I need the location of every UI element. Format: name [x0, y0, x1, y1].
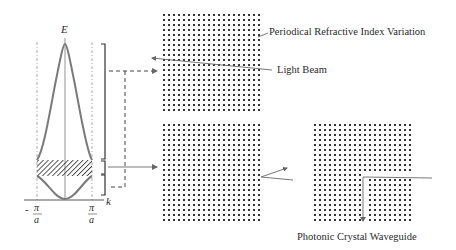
lattice-dot [384, 184, 386, 186]
lattice-dot [238, 129, 240, 131]
lattice-dot [238, 214, 240, 216]
lattice-dot [223, 54, 225, 56]
lattice-dot [384, 204, 386, 206]
lattice-dot [163, 129, 165, 131]
lattice-dot [183, 204, 185, 206]
lattice-dot [208, 134, 210, 136]
lattice-dot [404, 184, 406, 186]
lattice-dot [324, 124, 326, 126]
lattice-dot [183, 154, 185, 156]
lattice-dot [223, 129, 225, 131]
lattice-dot [203, 134, 205, 136]
lattice-dot [223, 204, 225, 206]
lattice-dot [359, 154, 361, 156]
lattice-dot [193, 84, 195, 86]
lattice-dot [334, 219, 336, 221]
lattice-dot [349, 149, 351, 151]
lattice-dot [183, 129, 185, 131]
lattice-dot [324, 129, 326, 131]
lattice-dot [163, 219, 165, 221]
lattice-dot [208, 84, 210, 86]
lattice-dot [213, 124, 215, 126]
lattice-dot [344, 144, 346, 146]
lattice-dot [178, 214, 180, 216]
lattice-dot [389, 164, 391, 166]
lattice-dot [193, 79, 195, 81]
lattice-dot [364, 159, 366, 161]
lattice-dot [314, 144, 316, 146]
lattice-dot [223, 29, 225, 31]
lattice-dot [334, 139, 336, 141]
lattice-dot [178, 94, 180, 96]
lattice-dot [183, 64, 185, 66]
lattice-dot [228, 24, 230, 26]
lattice-dot [238, 59, 240, 61]
gap-bracket [101, 161, 105, 174]
lattice-dot [258, 184, 260, 186]
lattice-dot [213, 14, 215, 16]
lattice-dot [213, 34, 215, 36]
lattice-dot [188, 104, 190, 106]
lattice-dot [324, 144, 326, 146]
lattice-dot [248, 19, 250, 21]
lattice-dot [188, 144, 190, 146]
lattice-dot [178, 49, 180, 51]
lattice-dot [344, 174, 346, 176]
lattice-dot [243, 39, 245, 41]
lattice-dot [369, 184, 371, 186]
lattice-dot [349, 154, 351, 156]
lattice-dot [228, 164, 230, 166]
lattice-dot [163, 74, 165, 76]
lattice-dot [253, 19, 255, 21]
lattice-dot [213, 44, 215, 46]
lattice-dot [223, 79, 225, 81]
lattice-dot [223, 194, 225, 196]
lattice-dot [168, 44, 170, 46]
lattice-dot [183, 44, 185, 46]
lattice-dot [374, 199, 376, 201]
lattice-dot [198, 19, 200, 21]
lattice-dot [188, 189, 190, 191]
lattice-dot [203, 59, 205, 61]
lattice-dot [173, 24, 175, 26]
lattice-dot [173, 44, 175, 46]
lattice-dot [394, 139, 396, 141]
lattice-dot [228, 79, 230, 81]
lattice-dot [389, 189, 391, 191]
lattice-dot [198, 129, 200, 131]
lattice-dot [354, 214, 356, 216]
lattice-dot [198, 54, 200, 56]
lattice-dot [359, 179, 361, 181]
lattice-dot [178, 149, 180, 151]
lattice-dot [233, 59, 235, 61]
lattice-dot [193, 54, 195, 56]
lattice-dot [238, 189, 240, 191]
lattice-dot [188, 49, 190, 51]
lattice-dot [253, 129, 255, 131]
lattice-dot [233, 84, 235, 86]
lattice-dot [198, 204, 200, 206]
lattice-dot [183, 24, 185, 26]
lattice-dot [203, 144, 205, 146]
lattice-dot [258, 104, 260, 106]
lattice-dot [178, 189, 180, 191]
lattice-dot [208, 139, 210, 141]
lattice-dot [163, 89, 165, 91]
lattice-dot [188, 54, 190, 56]
upper-band-curve [37, 44, 92, 160]
lattice-dot [243, 159, 245, 161]
lattice-dot [213, 169, 215, 171]
lattice-dot [163, 169, 165, 171]
lattice-dot [359, 219, 361, 221]
lattice-dot [243, 139, 245, 141]
lattice-dot [178, 84, 180, 86]
lattice-dot [339, 194, 341, 196]
lattice-dot [193, 74, 195, 76]
lattice-dot [208, 164, 210, 166]
lower-band-bracket [101, 175, 105, 195]
lattice-dot [228, 194, 230, 196]
lattice-dot [384, 199, 386, 201]
lattice-dot [203, 129, 205, 131]
lattice-dot [243, 134, 245, 136]
lattice-dot [243, 44, 245, 46]
